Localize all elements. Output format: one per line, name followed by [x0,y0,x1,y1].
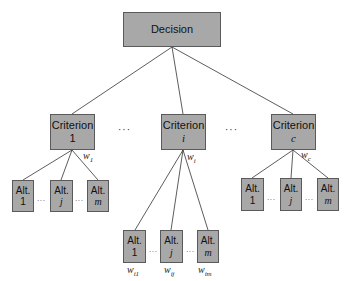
alt-node-left-j: Alt. j [50,180,73,212]
weight-label-alt-i1: wi1 [127,264,139,278]
edge-root-criterion-c [172,47,293,114]
alt-node-left-m: Alt. m [87,180,109,212]
alt-ellipsis: ··· [37,197,46,204]
criterion-node-1: Criterion 1 [50,114,95,150]
edge-ci-alt-1 [135,150,183,230]
criterion-node-i: Criterion i [161,114,206,150]
weight-label-criterion-c: wc [301,149,311,163]
edge-ci-alt-j [171,150,183,230]
weight-label-criterion-i: wi [187,151,196,165]
decision-node: Decision [123,12,221,47]
alt-node-middle-j: Alt. j [160,230,183,263]
criteria-ellipsis-left: ··· [118,124,131,135]
edge-c1-alt-1 [23,150,72,180]
criterion-label: Criterion [52,119,94,132]
alt-ellipsis: ··· [149,248,158,255]
alt-ellipsis: ··· [267,196,276,203]
edge-root-criterion-i [172,47,183,114]
alt-node-right-m: Alt. m [317,178,339,211]
alt-node-left-1: Alt. 1 [12,180,34,212]
alt-node-right-1: Alt. 1 [241,178,264,211]
alt-node-right-j: Alt. j [280,178,302,211]
alt-node-middle-1: Alt. 1 [123,230,146,263]
alt-ellipsis: ··· [75,197,84,204]
edge-root-criterion-1 [72,47,172,114]
criterion-label: Criterion [163,119,205,132]
alt-node-middle-m: Alt. m [197,230,219,263]
edge-cc-alt-1 [252,150,293,178]
criterion-index: i [182,132,185,145]
weight-label-alt-im: wim [198,264,212,278]
criterion-node-c: Criterion c [271,114,316,150]
alt-ellipsis: ··· [186,248,195,255]
weight-label-criterion-1: w1 [83,150,93,164]
criteria-ellipsis-right: ··· [225,124,238,135]
criterion-index: c [291,132,296,145]
alt-ellipsis: ··· [305,196,314,203]
edge-cc-alt-j [291,150,293,178]
weight-label-alt-ij: wij [164,264,175,278]
criterion-label: Criterion [273,119,315,132]
decision-label: Decision [151,23,193,36]
edge-c1-alt-j [61,150,72,180]
criterion-index: 1 [69,132,75,145]
